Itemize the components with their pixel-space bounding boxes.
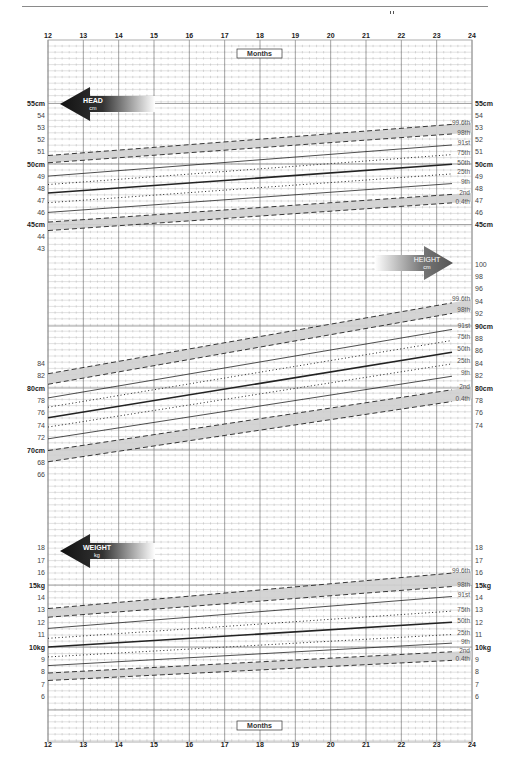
svg-text:18: 18 [256, 32, 264, 39]
svg-text:cm: cm [89, 105, 97, 111]
svg-text:45cm: 45cm [27, 221, 45, 228]
svg-text:99.6th: 99.6th [452, 567, 470, 574]
svg-text:17: 17 [221, 741, 229, 748]
svg-text:98: 98 [475, 273, 483, 280]
svg-text:55cm: 55cm [27, 100, 45, 107]
svg-text:10kg: 10kg [475, 644, 491, 652]
svg-text:9: 9 [475, 656, 479, 663]
svg-text:70cm: 70cm [27, 447, 45, 454]
svg-text:50th: 50th [457, 345, 470, 352]
svg-text:25th: 25th [457, 357, 470, 364]
svg-text:14: 14 [37, 594, 45, 601]
svg-text:46: 46 [475, 209, 483, 216]
svg-text:9: 9 [41, 656, 45, 663]
svg-text:45cm: 45cm [475, 221, 493, 228]
svg-text:43: 43 [37, 245, 45, 252]
svg-text:80cm: 80cm [27, 385, 45, 392]
svg-text:10kg: 10kg [29, 644, 45, 652]
svg-text:53: 53 [37, 124, 45, 131]
svg-text:50cm: 50cm [475, 161, 493, 168]
svg-text:Months: Months [247, 722, 272, 729]
svg-text:HEIGHT: HEIGHT [414, 256, 441, 263]
svg-text:86: 86 [475, 347, 483, 354]
months-label-bottom: Months [237, 721, 282, 730]
svg-text:24: 24 [468, 32, 476, 39]
svg-text:22: 22 [397, 32, 405, 39]
svg-text:8: 8 [475, 668, 479, 675]
svg-text:18: 18 [475, 544, 483, 551]
svg-text:75th: 75th [457, 606, 470, 613]
svg-text:84: 84 [37, 360, 45, 367]
svg-text:24: 24 [468, 741, 476, 748]
svg-text:53: 53 [475, 124, 483, 131]
svg-text:75th: 75th [457, 149, 470, 156]
svg-text:19: 19 [291, 741, 299, 748]
svg-text:78: 78 [37, 397, 45, 404]
svg-text:91st: 91st [458, 322, 470, 329]
svg-text:96: 96 [475, 285, 483, 292]
svg-text:12: 12 [44, 32, 52, 39]
svg-text:91st: 91st [458, 591, 470, 598]
svg-text:98th: 98th [457, 581, 470, 588]
svg-text:13: 13 [475, 606, 483, 613]
svg-text:99.6th: 99.6th [452, 295, 470, 302]
svg-text:19: 19 [291, 32, 299, 39]
weight-arrow-icon: WEIGHT kg [60, 534, 155, 568]
svg-text:16: 16 [185, 741, 193, 748]
svg-text:44: 44 [37, 233, 45, 240]
svg-text:Months: Months [247, 50, 272, 57]
svg-text:15kg: 15kg [29, 582, 45, 590]
svg-text:46: 46 [37, 209, 45, 216]
svg-text:54: 54 [37, 112, 45, 119]
growth-chart: 99.6th98th91st75th50th25th9th2nd0.4th99.… [0, 0, 514, 782]
svg-text:13: 13 [37, 606, 45, 613]
svg-text:99.6th: 99.6th [452, 119, 470, 126]
svg-text:13: 13 [79, 32, 87, 39]
svg-text:52: 52 [475, 136, 483, 143]
svg-text:51: 51 [37, 148, 45, 155]
svg-text:49: 49 [475, 173, 483, 180]
svg-text:9th: 9th [461, 369, 470, 376]
svg-text:WEIGHT: WEIGHT [83, 544, 112, 551]
svg-text:48: 48 [475, 185, 483, 192]
svg-text:54: 54 [475, 112, 483, 119]
svg-text:50cm: 50cm [27, 161, 45, 168]
svg-text:20: 20 [327, 741, 335, 748]
svg-text:90cm: 90cm [475, 323, 493, 330]
svg-text:68: 68 [37, 459, 45, 466]
svg-text:16: 16 [475, 569, 483, 576]
svg-text:50th: 50th [457, 159, 470, 166]
svg-text:HEAD: HEAD [83, 97, 103, 104]
svg-text:48: 48 [37, 185, 45, 192]
svg-text:49: 49 [37, 173, 45, 180]
svg-text:15: 15 [150, 741, 158, 748]
svg-text:91st: 91st [458, 139, 470, 146]
svg-text:7: 7 [41, 681, 45, 688]
svg-text:80cm: 80cm [475, 385, 493, 392]
svg-text:15: 15 [150, 32, 158, 39]
svg-text:75th: 75th [457, 333, 470, 340]
svg-text:16: 16 [37, 569, 45, 576]
svg-text:0.4th: 0.4th [456, 655, 471, 662]
svg-text:2nd: 2nd [459, 647, 470, 654]
height-arrow-icon: HEIGHT cm [375, 246, 453, 280]
svg-text:66: 66 [37, 471, 45, 478]
svg-text:23: 23 [433, 741, 441, 748]
months-label-top: Months [237, 49, 282, 58]
svg-text:21: 21 [362, 741, 370, 748]
svg-text:8: 8 [41, 668, 45, 675]
svg-text:17: 17 [37, 557, 45, 564]
svg-text:17: 17 [475, 557, 483, 564]
svg-text:94: 94 [475, 298, 483, 305]
svg-text:25th: 25th [457, 168, 470, 175]
svg-text:14: 14 [115, 32, 123, 39]
svg-text:16: 16 [185, 32, 193, 39]
svg-text:98th: 98th [457, 306, 470, 313]
svg-text:78: 78 [475, 397, 483, 404]
svg-text:12: 12 [37, 619, 45, 626]
svg-text:55cm: 55cm [475, 100, 493, 107]
svg-text:15kg: 15kg [475, 582, 491, 590]
svg-text:23: 23 [433, 32, 441, 39]
svg-text:9th: 9th [461, 178, 470, 185]
svg-text:100: 100 [475, 261, 487, 268]
